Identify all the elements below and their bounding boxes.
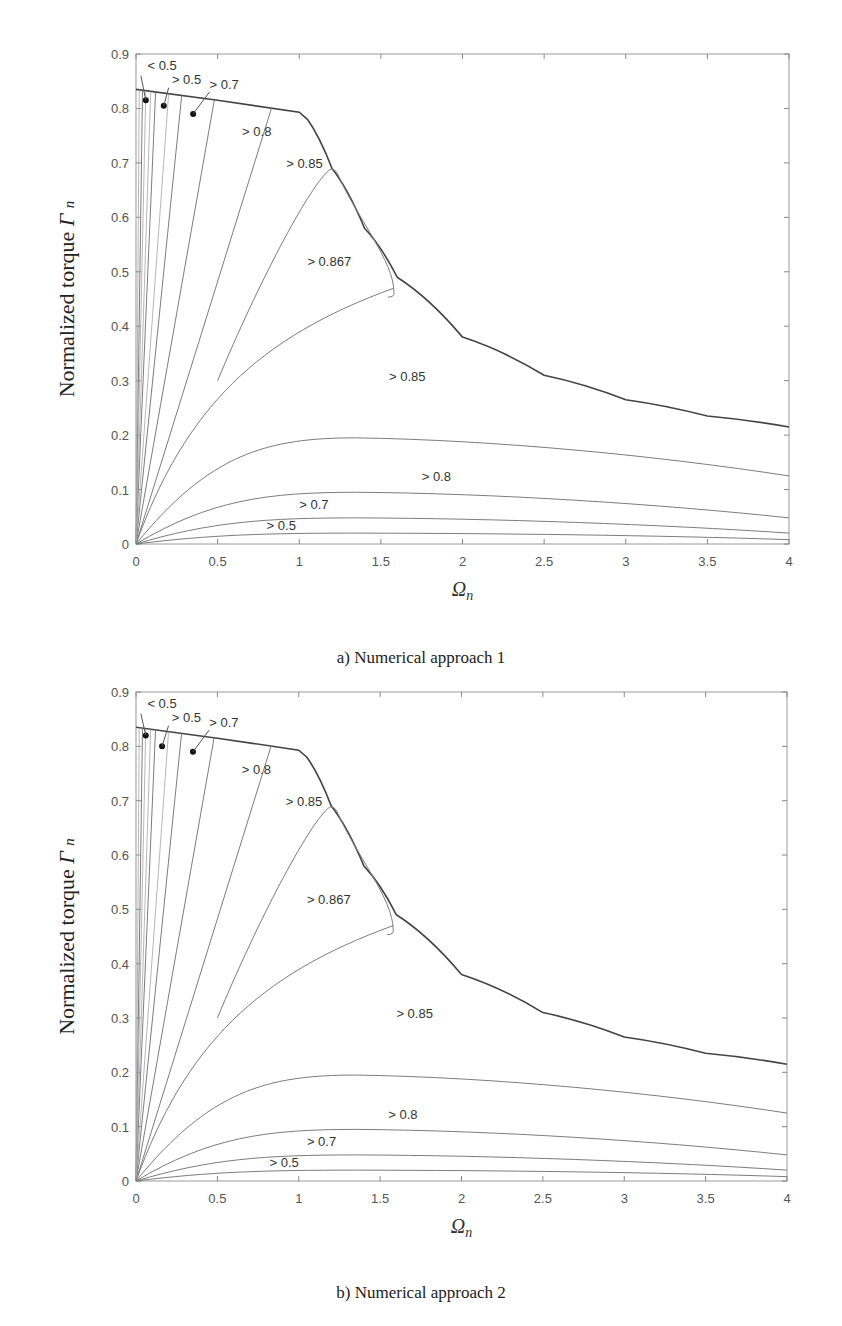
- max-torque-boundary: [136, 727, 787, 1064]
- contour-label: > 0.7: [299, 497, 328, 512]
- x-axis-title: Ωn: [452, 578, 473, 600]
- contour-label: > 0.5: [269, 1155, 298, 1170]
- contour-label: > 0.85: [286, 794, 323, 809]
- x-tick-label: 2.5: [535, 554, 553, 569]
- y-tick-label: 0.5: [111, 265, 129, 280]
- contour-label: > 0.8: [422, 469, 451, 484]
- y-tick-label: 0.6: [111, 210, 129, 225]
- x-tick-label: 0: [132, 1191, 139, 1206]
- y-tick-label: 0.2: [111, 428, 129, 443]
- contour-lines: [136, 89, 789, 544]
- efficiency-contour-low-torque: [136, 438, 789, 544]
- marker-leader-line: [193, 92, 209, 114]
- figure-a: 00.511.522.533.5400.10.20.30.40.50.60.70…: [0, 0, 842, 600]
- contour-label: > 0.85: [396, 1006, 433, 1021]
- contour-chart-a: 00.511.522.533.5400.10.20.30.40.50.60.70…: [0, 0, 842, 600]
- y-tick-label: 0.1: [111, 1120, 129, 1135]
- efficiency-contour-0.867: [217, 807, 393, 1018]
- y-tick-label: 0.7: [111, 156, 129, 171]
- x-tick-label: 3: [622, 554, 629, 569]
- x-tick-label: 1: [296, 554, 303, 569]
- x-tick-label: 2: [458, 1191, 465, 1206]
- x-tick-label: 3.5: [697, 1191, 715, 1206]
- efficiency-contour-low-torque: [136, 492, 789, 544]
- plot-frame: [136, 54, 789, 544]
- x-tick-label: 4: [783, 1191, 790, 1206]
- contour-label: > 0.7: [209, 77, 238, 92]
- y-axis-title: Normalized torque Γ n: [54, 838, 79, 1035]
- y-tick-label: 0.2: [111, 1065, 129, 1080]
- contour-chart-b: 00.511.522.533.5400.10.20.30.40.50.60.70…: [0, 638, 842, 1238]
- y-tick-label: 0.7: [111, 794, 129, 809]
- efficiency-contour: [136, 95, 182, 544]
- x-tick-label: 3: [621, 1191, 628, 1206]
- efficiency-contour: [136, 100, 214, 544]
- contour-label: > 0.85: [286, 156, 323, 171]
- y-axis-title: Normalized torque Γ n: [54, 201, 79, 398]
- contour-label: > 0.5: [172, 710, 201, 725]
- caption-b: b) Numerical approach 2: [0, 1283, 842, 1303]
- figure-b: 00.511.522.533.5400.10.20.30.40.50.60.70…: [0, 638, 842, 1238]
- efficiency-contour: [136, 733, 182, 1181]
- contour-label: > 0.8: [388, 1107, 417, 1122]
- x-tick-label: 2.5: [534, 1191, 552, 1206]
- y-tick-label: 0: [122, 537, 129, 552]
- contour-label: > 0.7: [209, 715, 238, 730]
- x-tick-label: 1.5: [372, 554, 390, 569]
- marker-leader-line: [193, 730, 209, 752]
- y-tick-label: 0.9: [111, 47, 129, 62]
- marker-leader-line: [141, 76, 146, 101]
- plot-frame: [136, 692, 787, 1181]
- contour-label: > 0.867: [307, 254, 351, 269]
- contour-label: > 0.85: [389, 369, 426, 384]
- contour-label: > 0.5: [267, 518, 296, 533]
- contour-lines: [136, 727, 787, 1181]
- contour-label: > 0.8: [242, 124, 271, 139]
- marker-leader-line: [141, 714, 146, 736]
- y-tick-label: 0.8: [111, 101, 129, 116]
- efficiency-contour-low-torque: [136, 1129, 787, 1181]
- y-tick-label: 0: [122, 1174, 129, 1189]
- x-tick-label: 0: [132, 554, 139, 569]
- y-tick-label: 0.3: [111, 374, 129, 389]
- x-tick-label: 2: [459, 554, 466, 569]
- y-tick-label: 0.4: [111, 957, 129, 972]
- contour-label: > 0.8: [242, 762, 271, 777]
- x-axis-title: Ωn: [451, 1215, 472, 1238]
- y-tick-label: 0.1: [111, 483, 129, 498]
- x-tick-label: 3.5: [698, 554, 716, 569]
- y-tick-label: 0.5: [111, 902, 129, 917]
- x-tick-label: 0.5: [209, 554, 227, 569]
- y-tick-label: 0.9: [111, 685, 129, 700]
- y-tick-label: 0.4: [111, 319, 129, 334]
- efficiency-contour-0.867: [218, 169, 394, 381]
- efficiency-contour: [136, 738, 214, 1181]
- contour-label: > 0.7: [307, 1134, 336, 1149]
- efficiency-contour-low-torque: [136, 1075, 787, 1181]
- x-tick-label: 1: [295, 1191, 302, 1206]
- x-tick-label: 0.5: [208, 1191, 226, 1206]
- y-tick-label: 0.8: [111, 739, 129, 754]
- x-tick-label: 4: [785, 554, 792, 569]
- contour-label: > 0.5: [172, 72, 201, 87]
- contour-label: > 0.867: [307, 892, 351, 907]
- max-torque-boundary: [136, 89, 789, 427]
- y-tick-label: 0.3: [111, 1011, 129, 1026]
- y-tick-label: 0.6: [111, 848, 129, 863]
- x-tick-label: 1.5: [371, 1191, 389, 1206]
